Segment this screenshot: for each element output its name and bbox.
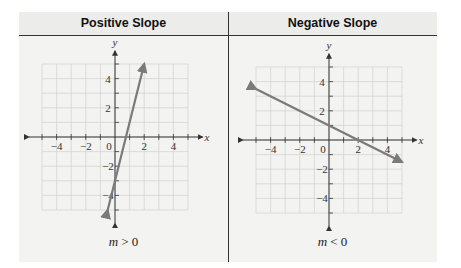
- caption-value: 0: [132, 234, 139, 249]
- y-tick-label: −4: [316, 192, 328, 204]
- slope-comparison-table: Positive Slope Negative Slope −4−202442−…: [19, 12, 437, 262]
- caption-value: 0: [341, 234, 348, 249]
- caption-operator: <: [330, 234, 337, 249]
- caption-operator: >: [121, 234, 128, 249]
- y-tick-label: 2: [319, 105, 325, 117]
- y-tick-label: 4: [105, 73, 111, 85]
- x-tick-label: −4: [51, 140, 63, 152]
- caption-variable: m: [318, 234, 327, 249]
- x-tick-label: −2: [80, 140, 92, 152]
- x-axis-label: x: [418, 134, 424, 146]
- negative-slope-graph: −4−202442−2−4xy: [229, 12, 438, 262]
- y-tick-label: −2: [316, 163, 328, 175]
- x-tick-label: 0: [320, 143, 326, 155]
- y-axis-label: y: [112, 36, 118, 48]
- x-tick-label: 2: [141, 140, 147, 152]
- x-tick-label: −2: [294, 143, 306, 155]
- x-tick-label: 4: [171, 140, 177, 152]
- y-tick-label: −2: [102, 160, 114, 172]
- x-tick-label: 2: [355, 143, 361, 155]
- y-axis-label: y: [326, 39, 332, 51]
- y-tick-label: 2: [105, 102, 111, 114]
- x-axis-label: x: [204, 131, 210, 143]
- caption-variable: m: [109, 234, 118, 249]
- negative-slope-caption: m < 0: [228, 234, 437, 250]
- positive-slope-caption: m > 0: [19, 234, 228, 250]
- x-tick-label: −4: [265, 143, 277, 155]
- positive-slope-graph: −4−202442−2−4xy: [19, 12, 228, 262]
- x-tick-label: 0: [106, 140, 112, 152]
- y-tick-label: 4: [319, 76, 325, 88]
